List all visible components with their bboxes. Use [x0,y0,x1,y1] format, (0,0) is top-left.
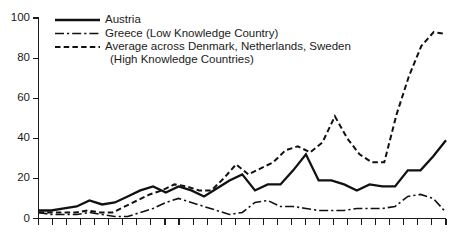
line-chart: 020406080100 AustriaGreece (Low Knowledg… [0,0,455,237]
chart-canvas: 020406080100 AustriaGreece (Low Knowledg… [0,0,455,237]
y-tick-label: 40 [17,131,30,143]
legend-label-3: (High Knowledge Countries) [110,53,254,65]
y-tick-label: 100 [11,11,30,23]
legend-label-0: Austria [105,13,141,25]
x-tick-group [39,219,447,226]
x-axis [39,219,447,226]
chart-legend: AustriaGreece (Low Knowledge Country)Ave… [55,13,351,65]
y-tick-label: 20 [17,171,30,183]
legend-label-1: Greece (Low Knowledge Country) [105,27,278,39]
y-tick-group: 020406080100 [11,11,39,224]
y-tick-label: 0 [24,212,30,224]
y-tick-label: 60 [17,91,30,103]
y-tick-label: 80 [17,51,30,63]
legend-label-2: Average across Denmark, Netherlands, Swe… [105,40,351,52]
y-axis: 020406080100 [11,11,39,224]
series-line-0 [39,140,447,210]
